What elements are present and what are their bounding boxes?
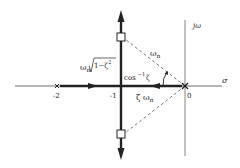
arrow-left-branch-icon <box>88 83 98 89</box>
tick-zero: 0 <box>187 92 191 100</box>
tick-minus-one: -1 <box>110 92 117 100</box>
tick-minus-two: -2 <box>53 92 60 100</box>
arrow-right-branch-icon <box>150 83 160 89</box>
closed-loop-pole-upper <box>117 33 125 41</box>
root-locus-diagram: -2 -1 0 jω σ ωn ωn 1−ζ2 cos−1ζ ζ ωn <box>0 0 240 168</box>
arrow-up-icon <box>118 10 125 22</box>
angle-label: cos−1ζ <box>124 71 150 82</box>
imag-axis-label: jω <box>191 22 201 30</box>
svg-text:1−ζ2: 1−ζ2 <box>94 59 111 70</box>
damped-frequency-label: ωn 1−ζ2 <box>80 58 116 73</box>
real-axis-label: σ <box>222 76 228 85</box>
omega-n-label: ωn <box>150 49 161 59</box>
closed-loop-pole-lower <box>117 130 125 138</box>
zeta-omega-n-label: ζ ωn <box>136 93 153 103</box>
svg-text:ωn: ωn <box>80 63 91 73</box>
omega-n-dashed-lower <box>125 86 185 133</box>
arrow-down-icon <box>118 148 125 160</box>
